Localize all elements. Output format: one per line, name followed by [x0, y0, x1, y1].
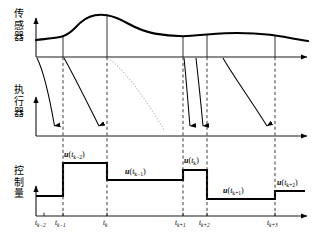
u-sub-1: k−1: [134, 171, 143, 177]
time-tick-label-tk-1: tk−1: [55, 218, 66, 227]
control-staircase: [36, 163, 305, 199]
t-sub-1: k−1: [57, 222, 65, 228]
t-sub-3: k+1: [177, 222, 185, 228]
delay-arc-1: [37, 58, 55, 126]
u-paren-close-3: ): [241, 186, 244, 195]
time-tick-label-tk1: tk+1: [175, 218, 186, 227]
u-sub-2: k: [193, 160, 196, 166]
t-sub-0: k−2: [37, 222, 45, 228]
panel-control: [36, 163, 307, 216]
delay-arc-5: [196, 58, 203, 126]
control-label-u-tk2: u(tk+2): [277, 178, 298, 187]
panel-actuator: [36, 58, 307, 136]
time-tick-label-tk2: tk+2: [199, 218, 210, 227]
time-tick-label-tk: tk: [103, 218, 107, 227]
sensor-signal-curve: [36, 15, 308, 41]
t-sub-4: k+2: [201, 222, 209, 228]
u-sub-3: k+1: [232, 190, 241, 196]
delay-arc-4: [184, 58, 190, 126]
time-tick-label-tk-2: tk−2: [35, 218, 46, 227]
control-label-u-tk-2: u(tk−2): [64, 150, 85, 159]
u-sub-4: k+2: [286, 182, 295, 188]
u-paren-close-1: ): [143, 167, 146, 176]
diagram-canvas: [0, 0, 317, 238]
u-paren-close-0: ): [82, 150, 85, 159]
delay-arc-2: [64, 58, 99, 126]
timing-diagram-figure: 传 感 器 执 行 器 控 制 量: [0, 0, 317, 238]
control-axis-ticks: [44, 213, 275, 216]
delay-arc-3-ghost: [108, 58, 164, 130]
delay-arc-6: [223, 58, 267, 126]
u-paren-close-4: ): [295, 178, 298, 187]
panel-sensor: [36, 15, 308, 57]
t-sub-5: k+3: [269, 222, 277, 228]
control-label-u-tk-1: u(tk−1): [125, 167, 146, 176]
time-tick-label-tk3: tk+3: [267, 218, 278, 227]
u-sub-0: k−2: [73, 154, 82, 160]
control-label-u-tk1: u(tk+1): [223, 186, 244, 195]
control-label-u-tk: u(tk): [184, 156, 199, 165]
u-paren-close-2: ): [196, 156, 199, 165]
